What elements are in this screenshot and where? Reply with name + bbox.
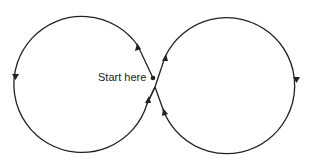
arrow-icon bbox=[162, 54, 168, 61]
left-loop-path bbox=[14, 16, 155, 152]
start-label: Start here bbox=[98, 71, 146, 83]
figure-eight-diagram bbox=[0, 0, 312, 163]
arrow-icon bbox=[162, 108, 168, 116]
arrow-icon bbox=[12, 74, 19, 80]
right-loop-path bbox=[155, 18, 295, 154]
start-dot bbox=[151, 76, 156, 81]
